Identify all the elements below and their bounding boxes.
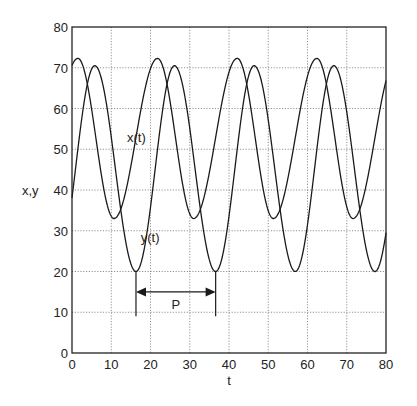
y-tick-label: 70 — [54, 61, 68, 76]
x-tick-label: 80 — [379, 357, 393, 372]
y-tick-label: 20 — [54, 265, 68, 280]
x-tick-label: 50 — [261, 357, 275, 372]
y-tick-label: 60 — [54, 102, 68, 117]
arrowhead-right-icon — [206, 287, 216, 296]
x-tick-label: 10 — [104, 357, 118, 372]
grid-lines — [72, 27, 386, 353]
y-tick-label: 40 — [54, 183, 68, 198]
series-label-y: y(t) — [141, 230, 160, 245]
x-tick-label: 70 — [340, 357, 354, 372]
arrowhead-left-icon — [136, 287, 146, 296]
y-tick-label: 0 — [61, 346, 68, 361]
chart: 0102030405060708001020304050607080 t x,y… — [0, 0, 417, 406]
y-tick-label: 10 — [54, 305, 68, 320]
y-axis-label: x,y — [22, 183, 39, 198]
x-axis-label: t — [227, 373, 231, 388]
x-tick-label: 60 — [300, 357, 314, 372]
x-tick-label: 20 — [143, 357, 157, 372]
x-tick-label: 40 — [222, 357, 236, 372]
y-tick-label: 50 — [54, 142, 68, 157]
x-tick-label: 0 — [68, 357, 75, 372]
y-tick-label: 80 — [54, 20, 68, 35]
y-tick-label: 30 — [54, 224, 68, 239]
tick-labels: 0102030405060708001020304050607080 — [54, 20, 394, 372]
period-label: P — [171, 297, 180, 312]
x-tick-label: 30 — [183, 357, 197, 372]
series-label-x: x(t) — [127, 130, 146, 145]
